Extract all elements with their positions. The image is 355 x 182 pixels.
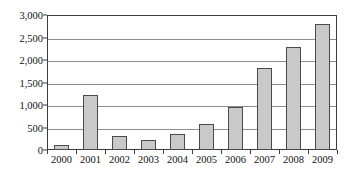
bar-2008 — [286, 47, 301, 151]
x-tick-label: 2003 — [134, 154, 163, 165]
bar-chart: 0 500 1,000 1,500 2,000 2,500 3,000 2000… — [0, 0, 355, 182]
bar-slot — [134, 15, 163, 150]
x-tick-label: 2001 — [76, 154, 105, 165]
bar-2007 — [257, 68, 272, 150]
bar-2003 — [141, 140, 156, 150]
bar-2005 — [199, 124, 214, 150]
x-tick-label: 2007 — [250, 154, 279, 165]
x-tick-label: 2004 — [163, 154, 192, 165]
x-tick-label: 2005 — [192, 154, 221, 165]
bar-slot — [47, 15, 76, 150]
bar-2000 — [54, 145, 69, 150]
bar-slot — [105, 15, 134, 150]
y-tick-label: 1,500 — [19, 77, 43, 88]
bar-slot — [221, 15, 250, 150]
bar-slot — [279, 15, 308, 150]
y-tick-label: 1,000 — [19, 100, 43, 111]
x-tick-mark — [337, 150, 338, 154]
bar-2002 — [112, 136, 127, 150]
bar-2001 — [83, 95, 98, 150]
bar-slot — [308, 15, 337, 150]
y-tick-label: 2,500 — [19, 32, 43, 43]
bar-2006 — [228, 107, 243, 150]
x-tick-label: 2002 — [105, 154, 134, 165]
bar-slot — [76, 15, 105, 150]
y-tick-label: 500 — [27, 122, 43, 133]
x-axis: 2000 2001 2002 2003 2004 2005 2006 2007 … — [47, 154, 337, 165]
bar-2004 — [170, 134, 185, 150]
x-tick-label: 2009 — [308, 154, 337, 165]
x-tick-label: 2006 — [221, 154, 250, 165]
y-tick-label: 3,000 — [19, 10, 43, 21]
y-tick-label: 2,000 — [19, 55, 43, 66]
y-axis: 0 500 1,000 1,500 2,000 2,500 3,000 — [0, 0, 43, 182]
x-tick-label: 2000 — [47, 154, 76, 165]
bar-slot — [250, 15, 279, 150]
x-tick-label: 2008 — [279, 154, 308, 165]
bar-slot — [163, 15, 192, 150]
bar-series — [47, 15, 337, 150]
bar-slot — [192, 15, 221, 150]
bar-2009 — [315, 24, 330, 150]
